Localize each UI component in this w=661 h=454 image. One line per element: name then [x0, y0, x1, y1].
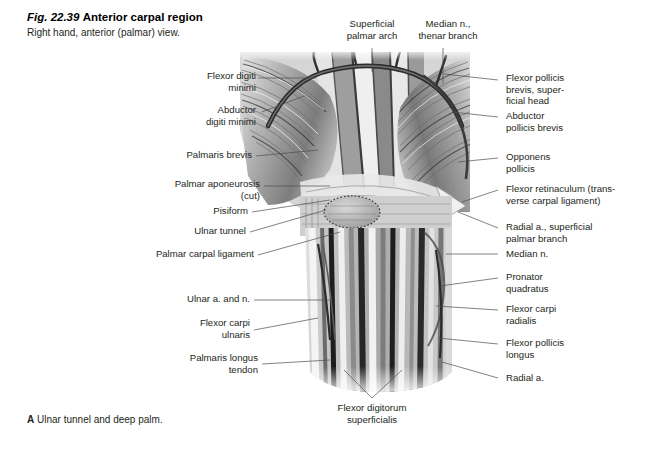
label-abductor-digiti-minimi: Abductor digiti minimi: [108, 104, 256, 127]
label-ulnar-tunnel: Ulnar tunnel: [140, 225, 246, 237]
label-flexor-digitorum-superficialis: Flexor digitorum superficialis: [302, 402, 442, 425]
label-radial-a-superficial-palmar-branch: Radial a., superficial palmar branch: [506, 221, 656, 244]
label-flexor-carpi-ulnaris: Flexor carpi ulnaris: [150, 317, 250, 340]
label-palmaris-longus-tendon: Palmaris longus tendon: [140, 352, 258, 375]
label-palmaris-brevis: Palmaris brevis: [108, 149, 252, 161]
label-palmar-aponeurosis-cut: Palmar aponeurosis (cut): [96, 178, 260, 201]
figure-caption: A Ulnar tunnel and deep palm.: [27, 414, 163, 425]
label-median-n-thenar-branch: Median n., thenar branch: [396, 18, 500, 41]
label-opponens-pollicis: Opponens pollicis: [506, 151, 656, 174]
label-palmar-carpal-ligament: Palmar carpal ligament: [80, 248, 254, 260]
label-flexor-pollicis-brevis: Flexor pollicis brevis, super- ficial he…: [506, 72, 656, 107]
figure-root: Fig. 22.39 Anterior carpal region Right …: [0, 0, 661, 454]
label-ulnar-a-and-n: Ulnar a. and n.: [130, 293, 250, 305]
caption-text: Ulnar tunnel and deep palm.: [37, 414, 163, 425]
label-flexor-carpi-radialis: Flexor carpi radialis: [506, 303, 656, 326]
panel-letter: A: [27, 414, 34, 425]
label-pronator-quadratus: Pronator quadratus: [506, 271, 656, 294]
label-pisiform: Pisiform: [150, 205, 248, 217]
label-flexor-pollicis-longus: Flexor pollicis longus: [506, 337, 656, 360]
label-flexor-digiti-minimi: Flexor digiti minimi: [118, 70, 256, 93]
label-radial-a: Radial a.: [506, 372, 656, 384]
label-median-n: Median n.: [506, 248, 656, 260]
label-flexor-retinaculum: Flexor retinaculum (trans- verse carpal …: [506, 183, 660, 206]
label-abductor-pollicis-brevis: Abductor pollicis brevis: [506, 110, 656, 133]
